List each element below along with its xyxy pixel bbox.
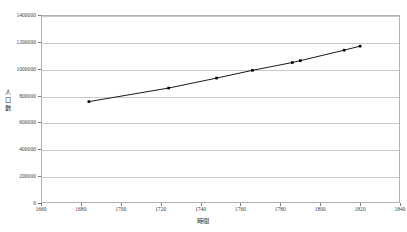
x-tick-mark xyxy=(240,203,241,206)
y-axis-title-char: 數 xyxy=(3,104,12,112)
data-point-marker xyxy=(215,77,218,80)
y-tick-mark xyxy=(38,15,41,16)
x-tick-mark xyxy=(280,203,281,206)
x-tick-mark xyxy=(201,203,202,206)
x-tick-mark xyxy=(121,203,122,206)
y-axis-title-char: 口 xyxy=(3,96,12,104)
data-point-marker xyxy=(167,87,170,90)
x-tick-mark xyxy=(360,203,361,206)
y-tick-label: 1400000 xyxy=(16,12,36,18)
x-tick-label: 1820 xyxy=(355,206,366,212)
data-point-marker xyxy=(291,61,294,64)
data-point-marker xyxy=(343,49,346,52)
series-line xyxy=(89,46,360,101)
x-tick-label: 1660 xyxy=(35,206,46,212)
x-tick-mark xyxy=(81,203,82,206)
x-tick-mark xyxy=(400,203,401,206)
x-tick-label: 1680 xyxy=(75,206,86,212)
x-tick-label: 1720 xyxy=(155,206,166,212)
data-point-marker xyxy=(299,59,302,62)
y-tick-mark xyxy=(38,42,41,43)
x-axis-title: 時間 xyxy=(0,216,407,225)
y-tick-mark xyxy=(38,69,41,70)
y-tick-label: 400000 xyxy=(19,146,36,152)
y-tick-label: 1200000 xyxy=(16,39,36,45)
x-tick-mark xyxy=(161,203,162,206)
y-tick-mark xyxy=(38,176,41,177)
x-tick-label: 1840 xyxy=(394,206,405,212)
y-tick-label: 1000000 xyxy=(16,66,36,72)
y-tick-mark xyxy=(38,122,41,123)
x-tick-mark xyxy=(320,203,321,206)
y-axis-title: 人口數 xyxy=(3,88,12,113)
y-tick-mark xyxy=(38,149,41,150)
x-tick-label: 1700 xyxy=(115,206,126,212)
series-layer xyxy=(41,15,400,203)
x-tick-label: 1760 xyxy=(235,206,246,212)
x-tick-label: 1780 xyxy=(275,206,286,212)
y-tick-mark xyxy=(38,96,41,97)
y-tick-label: 800000 xyxy=(19,93,36,99)
x-tick-mark xyxy=(41,203,42,206)
x-tick-label: 1800 xyxy=(315,206,326,212)
data-point-marker xyxy=(359,45,362,48)
population-line-chart: 人口數 020000040000060000080000010000001200… xyxy=(0,0,407,232)
data-point-marker xyxy=(251,69,254,72)
x-tick-label: 1740 xyxy=(195,206,206,212)
y-tick-label: 200000 xyxy=(19,173,36,179)
y-axis-title-char: 人 xyxy=(3,88,12,96)
data-point-marker xyxy=(88,100,91,103)
y-tick-label: 600000 xyxy=(19,119,36,125)
